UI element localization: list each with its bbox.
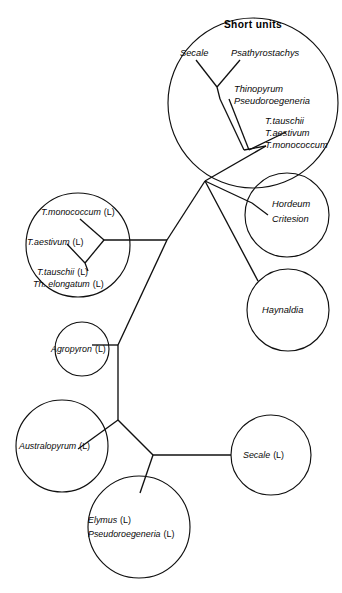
twig-secale-short [196,60,217,87]
label-secale-long: Secale(L) [243,450,284,460]
label-t-tauschii-long: T.tauschii(L) [37,267,88,277]
tree-canvas: Short units Secale Psathyrostachys Thino… [0,0,342,593]
label-haynaldia: Haynaldia [262,305,303,315]
label-pseudoroegeneria-short: Pseudoroegeneria [234,96,310,106]
label-agropyron: Agropyron(L) [50,344,106,354]
branch-lower-to-bottom [118,420,153,455]
label-t-aestivum-short: T.aestivum [265,128,310,138]
tree-backbone [78,146,266,493]
label-hordeum: Hordeum [272,199,310,209]
group-secale-long: Secale(L) [231,415,311,495]
label-th-elongatum-long: Th. elongatum(L) [33,279,104,289]
short-units-title: Short units [224,19,282,30]
branch-mid-to-agropyron-node [118,240,167,345]
group-hordeum: Hordeum Critesion [245,173,329,257]
label-psathyrostachys: Psathyrostachys [231,48,300,58]
twig-psathyrostachys [217,60,240,87]
label-t-tauschii-short: T.tauschii [265,116,305,126]
group-agropyron: Agropyron(L) [50,322,109,376]
phylogenetic-tree-figure: Short units Secale Psathyrostachys Thino… [0,0,342,593]
label-t-monococcum-long: T.monococcum(L) [41,207,115,217]
label-elymus: Elymus(L) [88,515,131,525]
branch-upper-to-mid [167,181,205,240]
branch-shortunits-stem [205,146,266,181]
twig-critesion [252,203,268,215]
twig-node-to-spine [217,87,220,99]
group-elymus: Elymus(L) Pseudoroegeneria(L) [88,476,190,578]
group-haynaldia: Haynaldia [247,269,329,351]
group-long-units-left: T.monococcum(L) T.aestivum(L) T.tauschii… [26,193,130,297]
label-australopyrum: Australopyrum(L) [18,441,90,451]
label-critesion: Critesion [272,214,309,224]
label-pseudoroegeneria-long: Pseudoroegeneria(L) [88,529,174,539]
branch-to-elymus [140,455,153,493]
group-australopyrum: Australopyrum(L) [16,400,108,492]
label-t-monococcum-short: T.monococcum [265,140,328,150]
label-t-aestivum-long: T.aestivum(L) [27,237,83,247]
twig-t-monococcum-long [80,219,104,240]
label-thinopyrum: Thinopyrum [234,84,283,94]
twig-aestivum-tauschii-node [85,240,104,263]
group-short-units: Short units Secale Psathyrostachys Thino… [168,18,338,188]
elymus-circle [88,476,190,578]
label-secale-short: Secale [180,48,208,58]
